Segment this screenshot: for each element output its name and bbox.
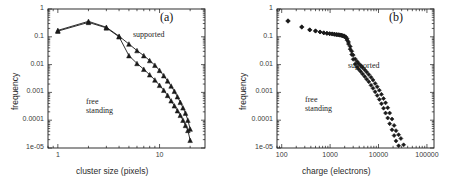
figure-container: (a) frequency cluster size (pixels) supp…	[0, 0, 453, 181]
x-tick-label: 10000	[357, 151, 401, 158]
y-tick-label: 0.1	[243, 32, 273, 39]
panel-label-b: (b)	[389, 10, 403, 25]
y-tick-label: 1	[243, 4, 273, 11]
x-tick-label: 10	[138, 151, 182, 158]
series-free-standing	[286, 19, 401, 147]
x-tick-label: 100000	[405, 151, 449, 158]
annotation-free-standing-b: free standing	[305, 95, 332, 113]
y-tick-label: 1e-05	[243, 143, 273, 150]
y-tick-label: 0.0001	[14, 115, 44, 122]
annotation-supported-b: supported	[348, 61, 380, 70]
y-tick-label: 0.01	[14, 60, 44, 67]
annotation-supported-a: supported	[133, 30, 165, 39]
x-tick-label: 1000	[308, 151, 352, 158]
y-tick-label: 0.001	[243, 87, 273, 94]
panel-label-a: (a)	[160, 10, 173, 25]
x-axis-title-a: cluster size (pixels)	[76, 166, 148, 176]
y-tick-label: 0.1	[14, 32, 44, 39]
y-tick-label: 0.01	[243, 60, 273, 67]
x-axis-title-b: charge (electrons)	[302, 166, 371, 176]
series-supported	[56, 19, 193, 131]
chart-panel-a: (a) frequency cluster size (pixels) supp…	[0, 0, 226, 181]
series-free-standing	[56, 20, 193, 142]
chart-panel-b: (b) frequency charge (electrons) support…	[226, 0, 453, 181]
y-tick-label: 1e-05	[14, 143, 44, 150]
y-tick-label: 0.0001	[243, 115, 273, 122]
annotation-free-standing-a: free standing	[86, 97, 113, 115]
x-tick-label: 1	[36, 151, 80, 158]
y-tick-label: 1	[14, 4, 44, 11]
y-tick-label: 0.001	[14, 87, 44, 94]
x-tick-label: 100	[260, 151, 304, 158]
